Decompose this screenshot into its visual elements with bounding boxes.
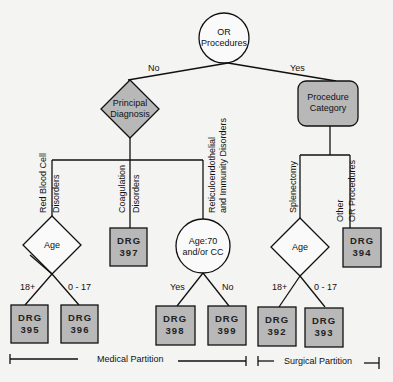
svg-text:OR Procedures: OR Procedures (347, 159, 357, 222)
label-18-plus-medical: 18+ (20, 282, 35, 292)
svg-text:398: 398 (166, 325, 185, 336)
drg-397-box: DRG 397 (110, 228, 147, 266)
age-decision-surgical: Age (271, 218, 329, 276)
svg-text:DRG: DRG (312, 315, 336, 326)
drg-396-box: DRG 396 (61, 305, 98, 343)
svg-text:396: 396 (71, 324, 90, 335)
svg-text:Disorders: Disorders (131, 174, 141, 213)
svg-text:Category: Category (310, 103, 347, 113)
svg-text:Procedures: Procedures (201, 38, 248, 48)
svg-text:392: 392 (268, 326, 287, 337)
label-0-17-surgical: 0 - 17 (314, 282, 337, 292)
svg-text:Red Blood Cell: Red Blood Cell (38, 153, 48, 213)
age70-cc-decision: Age:70 and/or CC (176, 219, 230, 273)
svg-text:Procedure: Procedure (307, 92, 349, 102)
svg-text:Reticuloendothelial: Reticuloendothelial (207, 137, 217, 213)
svg-text:DRG: DRG (215, 313, 239, 324)
edge-yes (228, 63, 336, 81)
drg-399-box: DRG 399 (208, 306, 246, 345)
medical-partition-marker: Medical Partition (10, 354, 246, 366)
svg-text:Surgical Partition: Surgical Partition (284, 356, 352, 366)
svg-text:OR: OR (217, 27, 231, 37)
svg-text:393: 393 (315, 327, 334, 338)
svg-text:397: 397 (120, 247, 139, 258)
branch-label-coagulation: Coagulation Disorders (117, 165, 141, 213)
drg-393-box: DRG 393 (305, 308, 343, 347)
svg-text:DRG: DRG (68, 312, 92, 323)
svg-text:Splenectomy: Splenectomy (288, 160, 298, 213)
principal-diagnosis-node: Principal Diagnosis (101, 80, 159, 138)
svg-text:Age: Age (44, 240, 60, 250)
svg-text:395: 395 (21, 324, 40, 335)
drg-395-box: DRG 395 (11, 305, 48, 343)
edge-no (128, 63, 228, 80)
svg-text:Coagulation: Coagulation (117, 165, 127, 213)
svg-text:Principal: Principal (113, 98, 148, 108)
svg-text:Diagnosis: Diagnosis (110, 109, 150, 119)
edge-label-yes: Yes (290, 63, 305, 73)
svg-text:DRG: DRG (117, 235, 141, 246)
svg-text:Age:70: Age:70 (189, 236, 218, 246)
root-node-or-procedures: OR Procedures (199, 13, 249, 63)
svg-text:399: 399 (218, 325, 237, 336)
svg-text:Age: Age (292, 242, 308, 252)
drg-392-box: DRG 392 (258, 307, 296, 346)
age-decision-medical: Age (23, 216, 81, 274)
svg-text:394: 394 (353, 247, 372, 258)
edge-label-no: No (148, 63, 160, 73)
svg-text:Disorders: Disorders (51, 174, 61, 213)
label-yes-cc: Yes (170, 282, 185, 292)
svg-text:and/or CC: and/or CC (182, 247, 224, 257)
drg-398-box: DRG 398 (156, 306, 195, 345)
svg-text:DRG: DRG (163, 313, 187, 324)
svg-text:and Immunity Disorders: and Immunity Disorders (218, 117, 228, 213)
drg-decision-tree: No Yes OR Procedures Principal Diagnosis… (0, 0, 393, 382)
drg-394-box: DRG 394 (343, 228, 381, 267)
branch-label-rbc: Red Blood Cell Disorders (38, 153, 61, 213)
svg-text:Medical Partition: Medical Partition (97, 354, 164, 364)
label-0-17-medical: 0 - 17 (68, 282, 91, 292)
svg-text:Other: Other (335, 199, 345, 222)
branch-label-other-or: Other OR Procedures (335, 159, 357, 222)
surgical-partition-marker: Surgical Partition (258, 356, 379, 369)
branch-label-splenectomy: Splenectomy (288, 160, 298, 213)
label-18-plus-surgical: 18+ (272, 282, 287, 292)
svg-text:DRG: DRG (18, 312, 42, 323)
branch-label-reticuloendothelial: Reticuloendothelial and Immunity Disorde… (207, 117, 228, 213)
svg-text:DRG: DRG (350, 235, 374, 246)
svg-text:DRG: DRG (265, 314, 289, 325)
label-no-cc: No (222, 282, 234, 292)
procedure-category-node: Procedure Category (298, 81, 358, 126)
